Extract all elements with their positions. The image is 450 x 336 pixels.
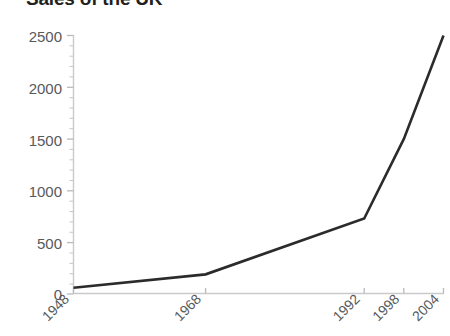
- x-tick-label: 1998: [369, 291, 402, 324]
- x-tick-label: 1968: [171, 291, 204, 324]
- x-tick-label: 2004: [409, 291, 442, 324]
- y-tick-label: 2000: [29, 80, 62, 97]
- data-series-line: [74, 36, 444, 288]
- y-axis-tick-labels: 2500 2000 1500 1000 500 0: [29, 28, 62, 303]
- y-tick-label: 500: [37, 235, 62, 252]
- x-tick-label: 1948: [39, 291, 72, 324]
- y-axis-major-ticks: [67, 36, 74, 295]
- x-axis-tick-labels: 1948 1968 1992 1998 2004: [39, 291, 442, 324]
- y-tick-label: 2500: [29, 28, 62, 45]
- chart-figure: Sales of the UK: [0, 0, 450, 336]
- y-tick-label: 1500: [29, 132, 62, 149]
- x-tick-label: 1992: [329, 291, 362, 324]
- line-chart-plot: 2500 2000 1500 1000 500 0 1948 1968 1992…: [0, 0, 450, 336]
- y-tick-label: 1000: [29, 183, 62, 200]
